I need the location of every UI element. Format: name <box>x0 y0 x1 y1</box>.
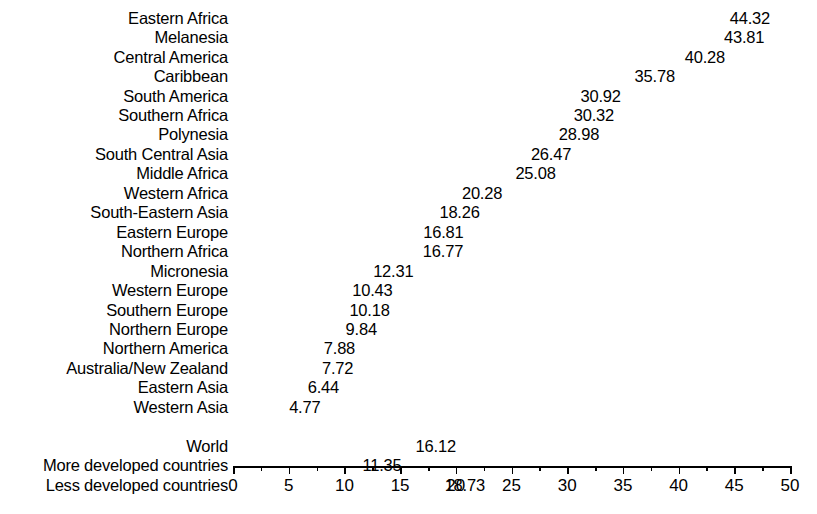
bar-row: Southern Europe10.18 <box>0 300 817 320</box>
bar-track <box>233 302 346 318</box>
axis-tick-major <box>400 466 402 474</box>
axis-tick-minor <box>539 466 541 471</box>
bar-track <box>233 10 727 26</box>
axis-tick-minor <box>484 466 486 471</box>
bar-track <box>233 243 420 259</box>
category-label: World <box>186 437 228 454</box>
bar-row: South America30.92 <box>0 86 817 106</box>
category-label: Eastern Asia <box>138 379 228 396</box>
category-label: South America <box>123 87 228 104</box>
bar-track <box>233 185 459 201</box>
bar-track <box>233 380 305 396</box>
bar-value-label: 35.78 <box>632 68 675 85</box>
axis-tick-label: 10 <box>335 477 354 494</box>
bar-row: Central America40.28 <box>0 47 817 67</box>
category-label: Northern Africa <box>121 243 228 260</box>
axis-tick-label: 20 <box>446 477 465 494</box>
category-label: More developed countries <box>43 457 228 474</box>
category-label: Western Africa <box>124 185 228 202</box>
category-label: Caribbean <box>154 68 228 85</box>
category-label: Northern America <box>103 340 228 357</box>
bar-row: Western Africa20.28 <box>0 183 817 203</box>
bar-track <box>233 166 512 182</box>
bar-row: Polynesia28.98 <box>0 125 817 145</box>
bar-row: World16.12 <box>0 436 817 456</box>
bar-row: Middle Africa25.08 <box>0 164 817 184</box>
bar-track <box>233 321 343 337</box>
bar-track <box>233 29 721 45</box>
category-label: Melanesia <box>155 29 228 46</box>
bar-value-label: 10.18 <box>346 301 389 318</box>
axis-tick-label: 30 <box>558 477 577 494</box>
category-label: Middle Africa <box>136 165 228 182</box>
bar-row: Eastern Africa44.32 <box>0 8 817 28</box>
category-label: Northern Europe <box>109 321 228 338</box>
axis-tick-minor <box>317 466 319 471</box>
axis-tick-label: 50 <box>781 477 800 494</box>
bar-value-label: 7.88 <box>321 340 355 357</box>
bar-row: Eastern Europe16.81 <box>0 222 817 242</box>
bar-value-label: 40.28 <box>682 48 725 65</box>
bar-value-label: 12.31 <box>370 262 413 279</box>
bar-row: Western Europe10.43 <box>0 280 817 300</box>
axis-tick-label: 15 <box>391 477 410 494</box>
bar-value-label: 43.81 <box>721 29 764 46</box>
bar-row: Melanesia43.81 <box>0 27 817 47</box>
bar-value-label: 16.12 <box>413 437 456 454</box>
bar-track <box>233 341 321 357</box>
axis-tick-major <box>344 466 346 474</box>
axis-tick-major <box>734 466 736 474</box>
axis-tick-major <box>456 466 458 474</box>
bar-value-label: 6.44 <box>305 379 339 396</box>
bar-track <box>233 399 286 415</box>
category-label: Western Europe <box>112 282 228 299</box>
bar-track <box>233 224 420 240</box>
bar-value-label: 10.43 <box>349 282 392 299</box>
bar-value-label: 28.98 <box>556 126 599 143</box>
bar-value-label: 26.47 <box>528 146 571 163</box>
bar-track <box>233 68 632 84</box>
bar-row: Northern Europe9.84 <box>0 319 817 339</box>
category-label: Western Asia <box>133 399 228 416</box>
category-label: Southern Europe <box>106 301 228 318</box>
axis-tick-label: 40 <box>669 477 688 494</box>
axis-tick-major <box>679 466 681 474</box>
bar-track <box>233 49 682 65</box>
bar-row: Northern America7.88 <box>0 339 817 359</box>
bar-value-label: 4.77 <box>286 399 320 416</box>
category-label: Eastern Africa <box>128 10 228 27</box>
bar-track <box>233 146 528 162</box>
axis-tick-label: 5 <box>284 477 293 494</box>
bar-row: Eastern Asia6.44 <box>0 378 817 398</box>
bar-value-label: 25.08 <box>512 165 555 182</box>
bar-row: Western Asia4.77 <box>0 397 817 417</box>
bar-track <box>233 127 556 143</box>
bar-value-label: 20.28 <box>459 185 502 202</box>
category-label: Australia/New Zealand <box>66 360 228 377</box>
bar-value-label: 44.32 <box>727 10 770 27</box>
axis-tick-minor <box>428 466 430 471</box>
category-label: Micronesia <box>150 262 228 279</box>
axis-tick-major <box>289 466 291 474</box>
category-label: Eastern Europe <box>116 223 228 240</box>
axis-tick-minor <box>261 466 263 471</box>
bar-track <box>233 107 571 123</box>
bar-row: Micronesia12.31 <box>0 261 817 281</box>
axis-tick-major <box>567 466 569 474</box>
bar-track <box>233 88 577 104</box>
category-label: Southern Africa <box>118 107 228 124</box>
bar-value-label: 16.77 <box>420 243 463 260</box>
axis-tick-label: 25 <box>502 477 521 494</box>
axis-tick-label: 45 <box>725 477 744 494</box>
bar-track <box>233 360 319 376</box>
axis-tick-minor <box>762 466 764 471</box>
bar-value-label: 7.72 <box>319 360 353 377</box>
bar-chart: Eastern Africa44.32Melanesia43.81Central… <box>0 0 817 514</box>
category-label: South Central Asia <box>95 146 228 163</box>
bar-track <box>233 205 436 221</box>
bar-value-label: 16.81 <box>420 223 463 240</box>
bar-track <box>233 263 370 279</box>
bar-value-label: 30.32 <box>571 107 614 124</box>
bar-row: South-Eastern Asia18.26 <box>0 203 817 223</box>
bar-row: South Central Asia26.47 <box>0 144 817 164</box>
